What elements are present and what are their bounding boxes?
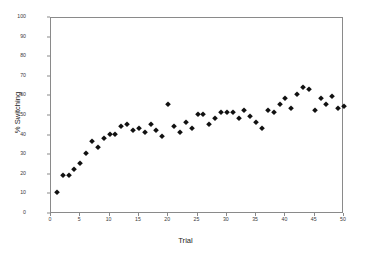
x-axis-tick-mark bbox=[109, 213, 110, 216]
x-axis-tick-label: 35 bbox=[247, 217, 263, 222]
data-point bbox=[277, 102, 282, 107]
data-point bbox=[218, 110, 223, 115]
data-point bbox=[166, 102, 171, 107]
y-axis-tick-label: 50 bbox=[12, 112, 26, 117]
plot-area bbox=[50, 17, 343, 213]
data-point bbox=[195, 111, 200, 116]
data-point bbox=[295, 92, 300, 97]
data-point bbox=[113, 131, 118, 136]
y-axis-tick-label: 70 bbox=[12, 73, 26, 78]
y-axis-tick-label: 20 bbox=[12, 171, 26, 176]
y-axis-tick-label: 40 bbox=[12, 132, 26, 137]
data-point bbox=[95, 145, 100, 150]
y-axis-tick-label: 100 bbox=[12, 14, 26, 19]
x-axis-tick-mark bbox=[197, 213, 198, 216]
data-point bbox=[306, 86, 311, 91]
data-point bbox=[60, 172, 65, 177]
x-axis-tick-label: 50 bbox=[335, 217, 351, 222]
x-axis-tick-mark bbox=[343, 213, 344, 216]
data-point bbox=[271, 110, 276, 115]
data-point bbox=[248, 113, 253, 118]
data-point bbox=[160, 133, 165, 138]
y-axis-tick-mark bbox=[47, 173, 50, 174]
y-axis-tick-label: 80 bbox=[12, 54, 26, 59]
y-axis-tick-mark bbox=[47, 154, 50, 155]
y-axis-tick-label: 0 bbox=[12, 210, 26, 215]
y-axis-tick-label: 30 bbox=[12, 152, 26, 157]
data-point bbox=[259, 125, 264, 130]
x-axis-tick-mark bbox=[255, 213, 256, 216]
x-axis-tick-mark bbox=[50, 213, 51, 216]
y-axis-tick-mark bbox=[47, 134, 50, 135]
data-point bbox=[84, 151, 89, 156]
x-axis-tick-mark bbox=[284, 213, 285, 216]
data-point bbox=[242, 108, 247, 113]
x-axis-tick-mark bbox=[226, 213, 227, 216]
x-axis-tick-mark bbox=[314, 213, 315, 216]
y-axis-tick-label: 90 bbox=[12, 34, 26, 39]
data-point bbox=[207, 121, 212, 126]
y-axis-tick-mark bbox=[47, 75, 50, 76]
x-axis-tick-mark bbox=[167, 213, 168, 216]
y-axis-tick-mark bbox=[47, 36, 50, 37]
data-point bbox=[265, 108, 270, 113]
data-point bbox=[177, 129, 182, 134]
data-point bbox=[213, 115, 218, 120]
data-point bbox=[289, 106, 294, 111]
data-point bbox=[66, 172, 71, 177]
data-point bbox=[341, 104, 346, 109]
x-axis-tick-label: 15 bbox=[130, 217, 146, 222]
data-point bbox=[148, 121, 153, 126]
x-axis-tick-label: 10 bbox=[101, 217, 117, 222]
data-point bbox=[130, 127, 135, 132]
data-point bbox=[224, 110, 229, 115]
x-axis-tick-label: 25 bbox=[189, 217, 205, 222]
data-point bbox=[125, 121, 130, 126]
data-point bbox=[318, 96, 323, 101]
x-axis-tick-label: 40 bbox=[276, 217, 292, 222]
x-axis-tick-label: 5 bbox=[71, 217, 87, 222]
x-axis-tick-label: 0 bbox=[42, 217, 58, 222]
x-axis-tick-mark bbox=[138, 213, 139, 216]
x-axis-tick-label: 45 bbox=[306, 217, 322, 222]
data-point bbox=[230, 110, 235, 115]
y-axis-tick-mark bbox=[47, 17, 50, 18]
data-point bbox=[72, 166, 77, 171]
y-axis-tick-mark bbox=[47, 95, 50, 96]
data-point bbox=[119, 123, 124, 128]
y-axis-tick-mark bbox=[47, 115, 50, 116]
data-points-layer bbox=[51, 18, 342, 212]
y-axis-tick-mark bbox=[47, 56, 50, 57]
x-axis-tick-label: 20 bbox=[159, 217, 175, 222]
data-point bbox=[78, 160, 83, 165]
data-point bbox=[154, 127, 159, 132]
data-point bbox=[142, 129, 147, 134]
data-point bbox=[172, 123, 177, 128]
data-point bbox=[189, 125, 194, 130]
y-axis-tick-label: 60 bbox=[12, 93, 26, 98]
data-point bbox=[183, 119, 188, 124]
data-point bbox=[300, 84, 305, 89]
y-axis-tick-label: 10 bbox=[12, 191, 26, 196]
data-point bbox=[236, 115, 241, 120]
data-point bbox=[336, 106, 341, 111]
data-point bbox=[324, 102, 329, 107]
data-point bbox=[89, 139, 94, 144]
data-point bbox=[283, 96, 288, 101]
data-point bbox=[136, 125, 141, 130]
x-axis-title: Trial bbox=[0, 236, 371, 245]
data-point bbox=[330, 94, 335, 99]
data-point bbox=[312, 108, 317, 113]
scatter-chart-figure: Trial % Switching 0102030405060708090100… bbox=[0, 0, 371, 267]
x-axis-tick-label: 30 bbox=[218, 217, 234, 222]
data-point bbox=[254, 119, 259, 124]
x-axis-tick-mark bbox=[79, 213, 80, 216]
data-point bbox=[201, 111, 206, 116]
data-point bbox=[101, 135, 106, 140]
data-point bbox=[54, 190, 59, 195]
y-axis-tick-mark bbox=[47, 193, 50, 194]
